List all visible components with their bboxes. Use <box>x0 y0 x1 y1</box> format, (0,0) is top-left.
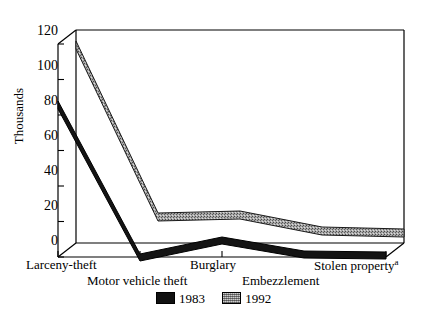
x-axis-label-embezzlement: Embezzlement <box>242 274 319 287</box>
x-axis-label-stolen-property: Stolen propertya <box>314 258 399 272</box>
chart-legend: 1983 1992 <box>0 292 427 305</box>
x-axis-label-motor-vehicle-theft: Motor vehicle theft <box>87 274 187 287</box>
axes-frame-3d <box>58 30 404 257</box>
legend-swatch-1992-icon <box>222 292 241 304</box>
series-ribbon-1983 <box>58 101 386 261</box>
series-ribbon-1992 <box>76 41 404 237</box>
y-axis-ticks <box>58 44 64 257</box>
x-axis-label-larceny-theft: Larceny-theft <box>26 258 97 271</box>
legend-item-1992: 1992 <box>222 292 271 305</box>
legend-label-1992: 1992 <box>245 291 271 306</box>
legend-swatch-1983-icon <box>156 292 175 304</box>
x-axis-label-burglary: Burglary <box>190 258 236 271</box>
legend-label-1983: 1983 <box>179 291 205 306</box>
x-axis-label-stolen-property-text: Stolen property <box>314 258 395 273</box>
chart-3d-line: Thousands 120 100 80 60 40 20 0 <box>0 0 427 320</box>
legend-item-1983: 1983 <box>156 292 205 305</box>
footnote-marker-a: a <box>395 257 399 267</box>
